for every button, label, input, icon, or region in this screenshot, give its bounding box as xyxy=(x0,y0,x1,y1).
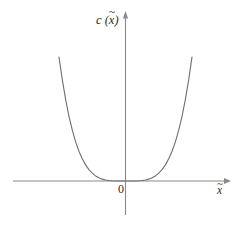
x-axis-label: ~x xyxy=(217,185,222,197)
figure-canvas: c (~x) ~x 0 xyxy=(0,0,246,226)
y-axis-label: c (~x) xyxy=(96,14,119,27)
origin-label: 0 xyxy=(118,183,124,195)
y-axis-tilde-accent: ~ xyxy=(109,7,115,19)
y-axis-variable-group: ~x xyxy=(109,14,115,27)
y-axis-open-paren: ( xyxy=(102,13,109,27)
y-axis-close-paren: ) xyxy=(114,13,118,27)
x-axis-tilde-accent: ~ xyxy=(217,178,222,189)
x-axis-variable-group: ~x xyxy=(217,185,222,197)
x-axis-arrowhead xyxy=(224,178,231,184)
y-axis-arrowhead xyxy=(123,11,128,19)
